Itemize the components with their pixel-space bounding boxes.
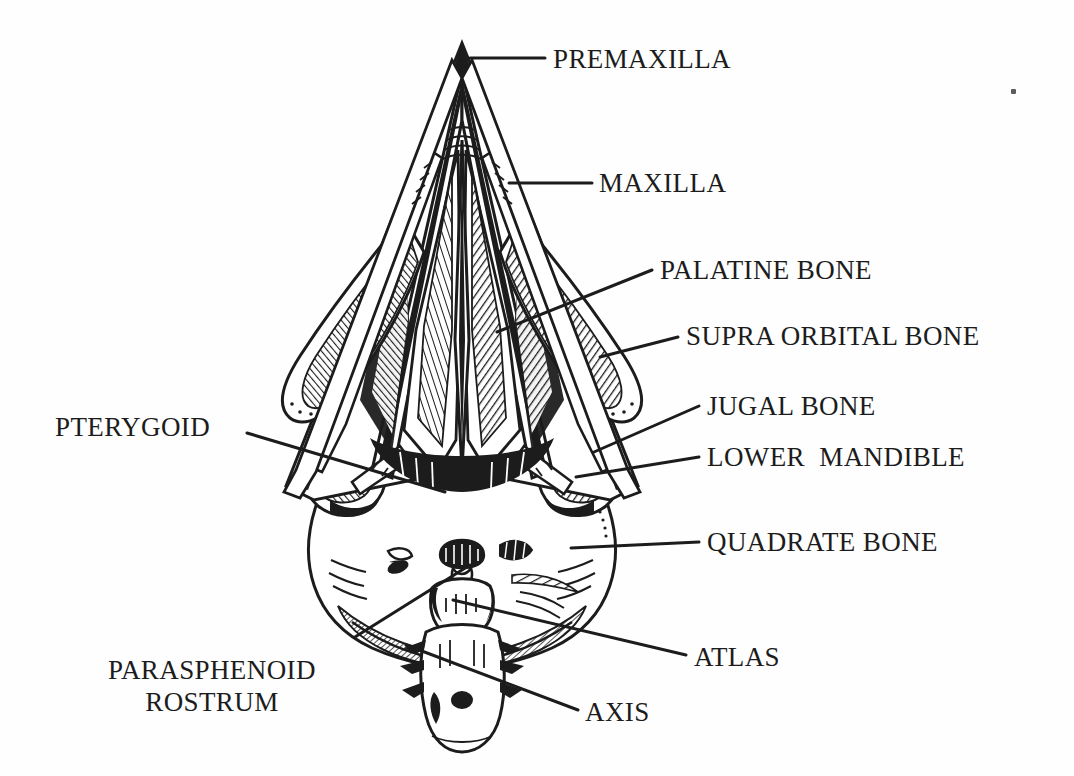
figure-canvas: PREMAXILLAMAXILLAPALATINE BONESUPRA ORBI…: [0, 0, 1074, 776]
leader-lower-mandible: [576, 457, 699, 477]
label-atlas: ATLAS: [694, 642, 780, 672]
label-parasphenoid-rostrum: PARASPHENOID ROSTRUM: [108, 655, 316, 719]
leader-quadrate-bone: [571, 542, 699, 548]
label-premaxilla: PREMAXILLA: [553, 44, 731, 74]
label-jugal-bone: JUGAL BONE: [707, 391, 876, 421]
leader-atlas: [453, 600, 686, 655]
label-maxilla: MAXILLA: [599, 168, 726, 198]
label-supra-orbital-bone: SUPRA ORBITAL BONE: [686, 321, 980, 351]
label-quadrate-bone: QUADRATE BONE: [707, 527, 938, 557]
label-axis: AXIS: [585, 697, 650, 727]
leader-pterygoid: [247, 433, 445, 492]
label-palatine-bone: PALATINE BONE: [660, 255, 872, 285]
leader-jugal-bone: [594, 406, 699, 452]
label-pterygoid: PTERYGOID: [55, 412, 210, 442]
leader-axis: [406, 645, 578, 710]
leader-supra-orbital-bone: [600, 337, 678, 357]
label-lower-mandible: LOWER MANDIBLE: [707, 442, 965, 472]
leader-palatine-bone: [497, 270, 652, 332]
scan-speck: [1011, 89, 1016, 94]
